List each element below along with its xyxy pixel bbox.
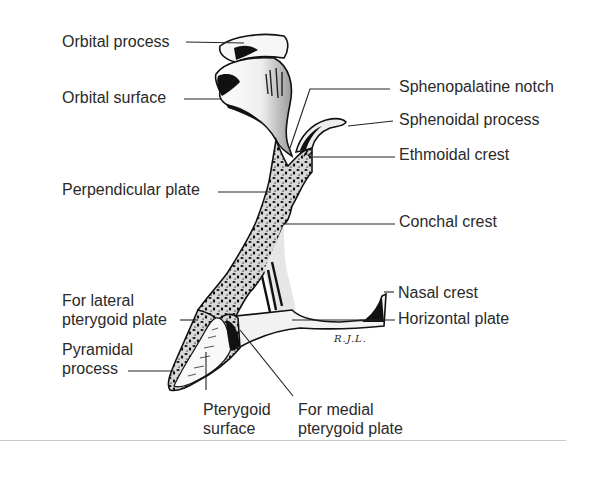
label-sphenoidal-process: Sphenoidal process <box>399 110 540 129</box>
label-ethmoidal-crest: Ethmoidal crest <box>399 145 509 164</box>
perpendicular-plate-shape <box>198 140 312 320</box>
orbital-surface-shape <box>215 58 292 156</box>
label-for-medial-pterygoid-plate: For medial pterygoid plate <box>298 400 403 438</box>
label-pyramidal-process: Pyramidal process <box>62 340 133 378</box>
pyramidal-process-shape <box>168 310 240 391</box>
bottom-divider <box>0 440 566 441</box>
label-horizontal-plate: Horizontal plate <box>398 309 509 328</box>
label-for-lateral-pterygoid-plate: For lateral pterygoid plate <box>62 291 167 329</box>
label-conchal-crest: Conchal crest <box>399 212 497 231</box>
label-nasal-crest: Nasal crest <box>398 283 478 302</box>
label-pterygoid-surface: Pterygoid surface <box>203 400 271 438</box>
artist-signature: R.J.L. <box>334 333 367 344</box>
sphenoidal-process-shape <box>296 119 346 156</box>
label-perpendicular-plate: Perpendicular plate <box>62 180 200 199</box>
palatine-bone-illustration <box>0 0 591 482</box>
label-orbital-process: Orbital process <box>62 32 170 51</box>
label-orbital-surface: Orbital surface <box>62 88 166 107</box>
label-sphenopalatine-notch: Sphenopalatine notch <box>399 77 554 96</box>
